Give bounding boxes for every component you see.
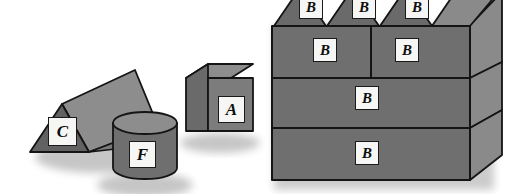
label-stack-prism-b2: B (352, 0, 376, 19)
label-stack-block-b6: B (355, 86, 379, 110)
cylinder-f-top-ellipse (113, 112, 177, 134)
label-stack-block-b7: B (355, 141, 379, 165)
solids-illustration: C F A B B B B B B B (0, 0, 522, 194)
label-stack-block-b4: B (313, 38, 337, 62)
stack-block-b5-face (371, 26, 470, 78)
cube-a-left-face (186, 64, 208, 131)
stack-solid (272, 0, 502, 180)
label-cylinder-f: F (129, 141, 156, 168)
solids-vector-canvas (0, 0, 522, 194)
label-prism-c: C (48, 117, 77, 146)
label-stack-prism-b3: B (405, 0, 429, 19)
label-stack-block-b5: B (395, 38, 419, 62)
label-stack-prism-b1: B (299, 0, 323, 19)
label-cube-a: A (218, 96, 245, 123)
